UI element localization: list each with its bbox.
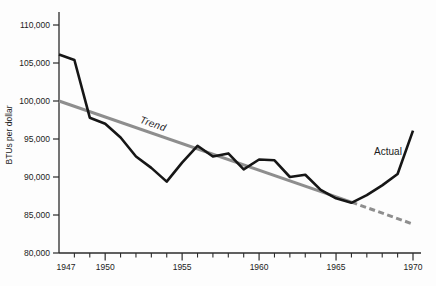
- y-tick-label: 90,000: [24, 172, 50, 182]
- y-axis-title: BTUs per dollar: [4, 105, 14, 164]
- series-line-actual: [59, 55, 413, 203]
- y-tick-label: 100,000: [19, 96, 50, 106]
- x-tick-label: 1950: [96, 262, 115, 272]
- y-tick-label: 110,000: [20, 20, 50, 30]
- y-tick-label: 80,000: [24, 248, 50, 258]
- x-tick-label: 1947: [57, 262, 76, 272]
- x-tick-label: 1970: [404, 262, 423, 272]
- chart-generated-layer: 110,000105,000100,00095,00090,00085,0008…: [19, 12, 422, 272]
- series-line-trend-projection: [351, 202, 413, 224]
- y-tick-label: 95,000: [24, 134, 50, 144]
- y-tick-label: 85,000: [24, 210, 50, 220]
- chart-figure: 110,000105,000100,00095,00090,00085,0008…: [0, 0, 436, 286]
- chart-canvas: 110,000105,000100,00095,00090,00085,0008…: [0, 0, 436, 286]
- y-tick-label: 105,000: [19, 58, 50, 68]
- x-tick-label: 1965: [327, 262, 346, 272]
- actual-line-label: Actual: [374, 146, 402, 157]
- x-tick-label: 1960: [250, 262, 269, 272]
- x-tick-label: 1955: [173, 262, 192, 272]
